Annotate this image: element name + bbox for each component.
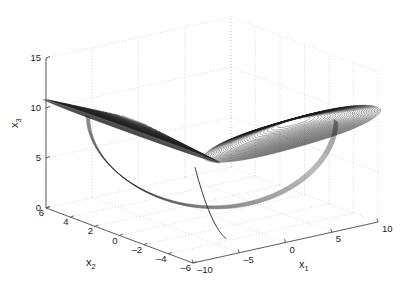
x-tick-–5: –5 [243, 254, 254, 265]
x-axis-label: x1 [299, 258, 309, 273]
y-axis-label: x2 [86, 256, 96, 271]
y-tick-6: 6 [39, 207, 44, 218]
z-tick-5: 5 [36, 152, 41, 163]
x-tick-0: 0 [290, 244, 295, 255]
attractor-trajectory [43, 99, 380, 238]
y-tick-4: 4 [63, 216, 68, 227]
y-tick-2: 2 [88, 225, 93, 236]
x-tick-10: 10 [382, 223, 393, 234]
x-tick-–10: –10 [197, 264, 213, 275]
plot-svg [0, 0, 404, 297]
y-tick-–6: –6 [180, 262, 191, 273]
y-tick-0: 0 [112, 235, 117, 246]
figure-canvas: 1510506420–2–4–6–10–50510 x3 x2 x1 [0, 0, 404, 297]
z-axis-label: x3 [8, 118, 23, 128]
z-tick-15: 15 [30, 52, 41, 63]
y-tick-–2: –2 [131, 244, 142, 255]
x-tick-5: 5 [336, 233, 341, 244]
y-tick-–4: –4 [156, 253, 167, 264]
z-tick-10: 10 [30, 102, 41, 113]
